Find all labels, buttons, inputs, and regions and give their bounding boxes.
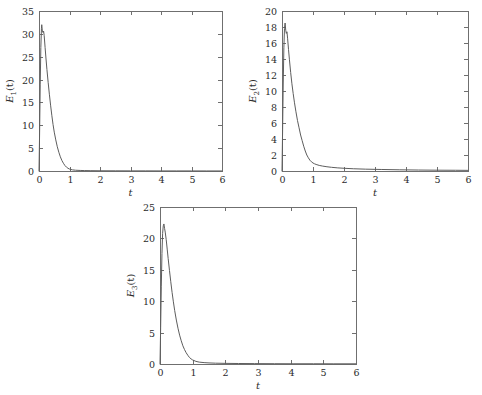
x-tick-label: 4: [403, 174, 409, 185]
x-tick-label: 3: [255, 367, 261, 378]
plot-frame: [161, 208, 357, 365]
chart-panel-3: 01234560510152025tE3(t): [113, 197, 373, 395]
y-axis-label: E2(t): [247, 79, 261, 104]
chart-panel-2-svg: 012345602468101214161820tE2(t): [241, 0, 482, 198]
chart-panel-2: 012345602468101214161820tE2(t): [241, 0, 482, 198]
y-tick-label: 10: [265, 86, 277, 97]
x-tick-label: 2: [341, 174, 347, 185]
y-tick-label: 5: [149, 328, 155, 339]
x-tick-label: 6: [353, 367, 359, 378]
x-tick-label: 5: [320, 367, 326, 378]
x-tick-label: 2: [97, 174, 103, 185]
x-tick-label: 0: [279, 174, 285, 185]
y-tick-label: 6: [271, 118, 277, 129]
y-tick-label: 18: [265, 22, 277, 33]
y-tick-label: 15: [22, 97, 34, 108]
plot-frame: [283, 12, 469, 172]
y-tick-label: 25: [143, 202, 155, 213]
y-tick-label: 16: [265, 38, 277, 49]
x-tick-label: 1: [310, 174, 316, 185]
y-tick-label: 20: [265, 6, 277, 17]
y-tick-label: 25: [22, 52, 34, 63]
x-tick-label: 3: [128, 174, 134, 185]
x-axis-label: t: [373, 187, 378, 198]
y-tick-label: 0: [149, 359, 155, 370]
y-tick-label: 8: [271, 102, 277, 113]
chart-panel-1: 012345605101520253035tE1(t): [0, 0, 241, 198]
x-axis-label: t: [256, 380, 261, 391]
plot-frame: [40, 12, 223, 172]
y-tick-label: 15: [143, 265, 155, 276]
x-tick-label: 4: [288, 367, 294, 378]
chart-panel-1-svg: 012345605101520253035tE1(t): [0, 0, 241, 198]
data-curve: [160, 224, 356, 364]
x-tick-label: 4: [158, 174, 164, 185]
x-tick-label: 3: [372, 174, 378, 185]
y-tick-label: 5: [28, 143, 34, 154]
y-tick-label: 2: [271, 150, 277, 161]
y-tick-label: 0: [271, 166, 277, 177]
y-axis-label: E1(t): [4, 79, 18, 104]
y-tick-label: 12: [265, 70, 277, 81]
x-tick-label: 1: [67, 174, 73, 185]
x-tick-label: 5: [189, 174, 195, 185]
data-curve: [282, 23, 468, 171]
y-tick-label: 14: [265, 54, 277, 65]
y-tick-label: 35: [22, 6, 34, 17]
y-tick-label: 0: [28, 166, 34, 177]
y-tick-label: 10: [22, 120, 34, 131]
x-tick-label: 6: [465, 174, 471, 185]
multi-panel-figure: 012345605101520253035tE1(t) 012345602468…: [0, 0, 482, 395]
y-tick-label: 10: [143, 296, 155, 307]
y-tick-label: 20: [143, 233, 155, 244]
x-tick-label: 6: [219, 174, 225, 185]
y-axis-label: E3(t): [125, 274, 139, 299]
y-tick-label: 20: [22, 75, 34, 86]
x-tick-label: 2: [222, 367, 228, 378]
x-tick-label: 0: [157, 367, 163, 378]
y-tick-label: 4: [271, 134, 277, 145]
y-tick-label: 30: [22, 29, 34, 40]
x-tick-label: 5: [434, 174, 440, 185]
x-tick-label: 1: [190, 367, 196, 378]
chart-panel-3-svg: 01234560510152025tE3(t): [113, 197, 373, 395]
x-tick-label: 0: [36, 174, 42, 185]
data-curve: [39, 25, 222, 171]
